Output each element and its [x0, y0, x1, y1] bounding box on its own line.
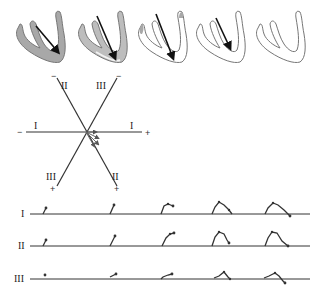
heart-panel-5: [257, 11, 306, 62]
svg-text:III: III: [96, 80, 106, 91]
svg-text:III: III: [46, 171, 56, 182]
svg-text:II: II: [112, 171, 119, 182]
hexaxial-diagram: I I − + II − II + III − III +: [17, 71, 150, 194]
trace-lead-i: I: [21, 201, 310, 219]
svg-text:I: I: [34, 120, 37, 131]
heart-panel-3: [139, 11, 188, 62]
svg-text:−: −: [17, 127, 22, 137]
svg-text:III: III: [14, 273, 24, 284]
svg-text:+: +: [114, 184, 119, 194]
svg-text:−: −: [116, 71, 121, 81]
svg-text:I: I: [130, 120, 133, 131]
svg-text:II: II: [61, 80, 68, 91]
heart-panel-2: [79, 11, 128, 62]
svg-text:I: I: [21, 208, 24, 219]
trace-lead-ii: II: [18, 231, 310, 251]
heart-panel-4: [197, 11, 246, 62]
trace-lead-iii: III: [14, 271, 310, 285]
svg-text:−: −: [51, 71, 56, 81]
svg-text:+: +: [145, 128, 150, 138]
svg-text:II: II: [18, 240, 25, 251]
heart-panel-1: [17, 11, 66, 62]
ecg-vector-figure: I I − + II − II + III − III + I: [0, 0, 318, 291]
svg-text:+: +: [50, 184, 55, 194]
